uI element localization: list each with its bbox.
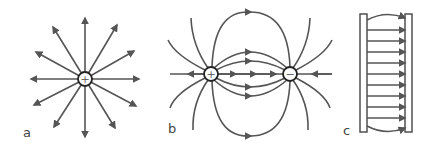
- dipole-field-lines: [168, 12, 332, 136]
- electric-field-diagram: + a: [0, 0, 429, 149]
- charge-sign-positive: +: [206, 68, 215, 81]
- charge-sign-negative: −: [285, 68, 294, 81]
- negative-plate: [405, 14, 412, 132]
- panel-a-point-charge: + a: [23, 18, 139, 140]
- panel-label-c: c: [343, 123, 350, 138]
- charge-sign: +: [80, 73, 89, 86]
- panel-label-a: a: [23, 125, 31, 140]
- panel-label-b: b: [168, 121, 176, 136]
- uniform-field-lines: [367, 14, 405, 131]
- panel-b-dipole: + − b: [168, 12, 332, 136]
- positive-plate: [360, 14, 367, 132]
- panel-c-capacitor: c: [343, 14, 412, 138]
